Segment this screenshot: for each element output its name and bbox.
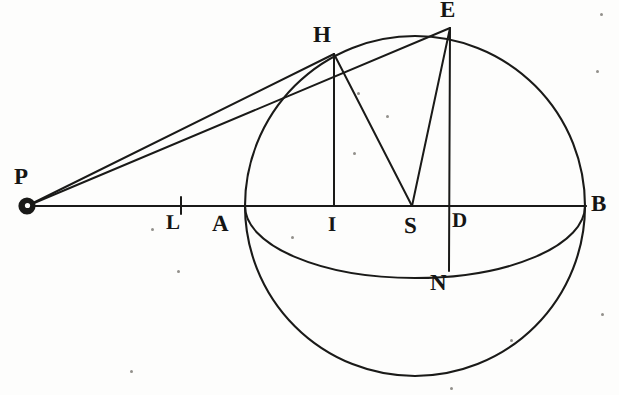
segment-e-to-s (412, 28, 450, 206)
drawing-group (20, 28, 587, 376)
paper-speck (130, 370, 133, 373)
paper-speck (510, 339, 513, 342)
paper-speck (386, 115, 389, 118)
segment-p-to-h (27, 54, 334, 206)
paper-speck (357, 92, 360, 95)
point-label-h: H (313, 23, 331, 46)
paper-speck (450, 387, 453, 390)
paper-speck (596, 70, 599, 73)
point-label-s: S (404, 214, 417, 237)
segment-e-ordinate (449, 28, 450, 271)
point-label-b: B (591, 192, 606, 215)
segment-h-to-s (334, 54, 412, 206)
paper-speck (600, 13, 603, 16)
point-label-p: P (14, 165, 28, 188)
point-marker-p-highlight (25, 203, 30, 208)
point-label-l: L (166, 212, 180, 233)
geometry-figure: PLAISDBHEN (0, 0, 619, 395)
point-label-e: E (440, 0, 455, 21)
paper-speck (601, 313, 604, 316)
paper-speck (353, 152, 356, 155)
paper-speck (151, 228, 154, 231)
point-label-a: A (212, 212, 229, 235)
point-label-n: N (430, 271, 447, 294)
point-label-i: I (328, 214, 336, 235)
paper-speck (291, 236, 294, 239)
point-label-d: D (452, 210, 467, 231)
figure-canvas (0, 0, 619, 395)
paper-speck (177, 270, 180, 273)
